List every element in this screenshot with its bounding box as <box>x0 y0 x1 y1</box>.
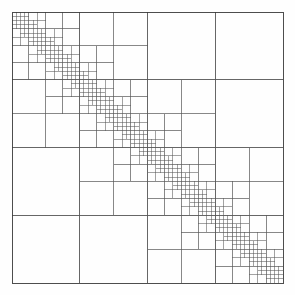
matrix-outer-border <box>13 13 284 284</box>
matrix-grid-layer <box>0 0 295 295</box>
figure-container <box>0 0 295 295</box>
